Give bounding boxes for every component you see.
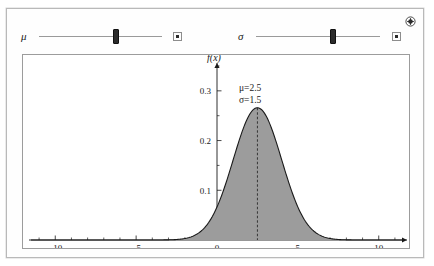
- svg-text:0.1: 0.1: [200, 186, 211, 196]
- slider-sigma[interactable]: σ: [238, 28, 410, 46]
- manipulate-window: μ σ −10−505100.10.20.3 f(x) x μ=2.5 σ=1.…: [6, 8, 424, 258]
- slider-sigma-track[interactable]: [256, 36, 380, 37]
- chart-svg: −10−505100.10.20.3 f(x) x μ=2.5 σ=1.5: [23, 55, 409, 248]
- svg-text:10: 10: [374, 243, 384, 248]
- svg-text:−5: −5: [131, 243, 141, 248]
- plot-panel: −10−505100.10.20.3 f(x) x μ=2.5 σ=1.5: [22, 54, 410, 249]
- slider-mu-animate-button[interactable]: [173, 32, 182, 41]
- slider-sigma-label: σ: [238, 28, 243, 44]
- slider-mu-track[interactable]: [39, 36, 162, 37]
- svg-text:0.3: 0.3: [200, 86, 212, 96]
- svg-text:5: 5: [296, 243, 301, 248]
- svg-text:0: 0: [215, 243, 220, 248]
- y-axis-label: f(x): [207, 55, 222, 64]
- slider-sigma-animate-button[interactable]: [392, 32, 401, 41]
- annotation-sigma: σ=1.5: [239, 95, 262, 105]
- control-bar: μ σ: [7, 9, 423, 54]
- slider-sigma-thumb[interactable]: [330, 29, 336, 44]
- plus-circle-icon[interactable]: [405, 13, 416, 24]
- slider-mu-label: μ: [21, 28, 27, 44]
- svg-text:0.2: 0.2: [200, 136, 211, 146]
- slider-mu-thumb[interactable]: [113, 29, 119, 44]
- annotation-mu: μ=2.5: [239, 83, 262, 93]
- svg-text:−10: −10: [48, 243, 63, 248]
- slider-mu[interactable]: μ: [21, 28, 191, 46]
- normal-distribution-chart: −10−505100.10.20.3 f(x) x μ=2.5 σ=1.5: [23, 55, 409, 248]
